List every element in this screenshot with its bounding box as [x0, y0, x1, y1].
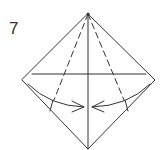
origami-diagram — [0, 0, 164, 150]
apex-point — [87, 13, 89, 15]
right-valley-fold — [88, 14, 124, 100]
right-fold-arrow — [92, 84, 150, 107]
left-valley-fold — [54, 14, 88, 100]
left-flap-edge — [50, 100, 53, 111]
